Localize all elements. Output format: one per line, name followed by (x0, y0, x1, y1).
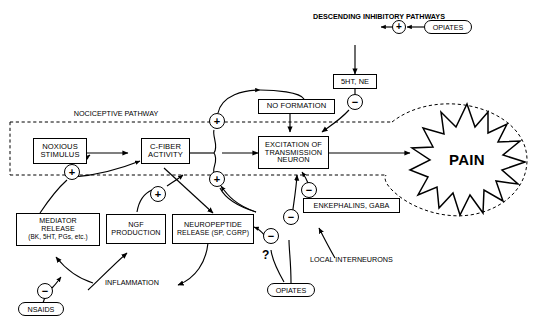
noxious-stimulus-node[interactable]: NOXIOUS STIMULUS (33, 138, 87, 164)
edge-mediator-to-plus (40, 180, 67, 213)
pain-pathway-diagram: NOCICEPTIVE PATHWAY DESCENDING INHIBITOR… (0, 0, 535, 323)
edge-noformation-loop-right (260, 90, 304, 99)
plus-sign-cfiber-down: + (209, 171, 225, 187)
descending-inhibitory-pathways-label: DESCENDING INHIBITORY PATHWAYS (313, 12, 397, 21)
mediator-release-node[interactable]: MEDIATOR RELEASE (BK, 5HT, PGs, etc.) (16, 213, 100, 246)
edge-cfiber-branch-up (214, 130, 216, 153)
edge-cfiber-to-neuropeptide (164, 168, 213, 213)
plus-sign-ngf: + (150, 186, 166, 202)
pain-label: PAIN (408, 100, 526, 218)
edge-interneurons-to-enkephalins (319, 228, 335, 258)
neuropeptide-release-node[interactable]: NEUROPEPTIDE RELEASE (SP, CGRP) (172, 214, 254, 244)
opiates-bottom-node[interactable]: OPIATES (267, 283, 315, 297)
minus-sign-opiates-neuropeptide: − (263, 228, 279, 244)
excitation-transmission-neuron-node[interactable]: EXCITATION OF TRANSMISSION NEURON (258, 136, 329, 169)
enkephalins-gaba-node[interactable]: ENKEPHALINS, GABA (303, 198, 400, 213)
no-formation-node[interactable]: NO FORMATION (258, 99, 335, 114)
plus-sign-mediator-stimulus: + (64, 164, 80, 180)
plus-sign-cfiber-up: + (209, 113, 225, 129)
minus-sign-nsaids: − (37, 283, 53, 299)
opiates-top-node[interactable]: OPIATES (424, 20, 472, 34)
nsaids-node[interactable]: NSAIDS (18, 302, 64, 316)
c-fiber-activity-node[interactable]: C-FIBER ACTIVITY (141, 138, 190, 164)
edge-opiates-bottom-up (289, 240, 291, 283)
minus-sign-enkephalins: − (301, 182, 317, 198)
five-ht-ne-node[interactable]: 5HT, NE (333, 74, 377, 89)
edge-inflammation-to-mediator (56, 257, 93, 283)
edge-opiates-to-np-branch (271, 250, 284, 282)
plus-sign-opiates-descending: + (392, 20, 406, 34)
question-mark-annotation: ? (262, 248, 269, 262)
minus-sign-5htne: − (347, 94, 363, 110)
nociceptive-pathway-label: NOCICEPTIVE PATHWAY (56, 110, 176, 118)
edge-neuropeptide-to-inflammation (178, 243, 208, 285)
edge-plus-ngf-to-cfiber (167, 175, 183, 186)
inflammation-label: INFLAMMATION (93, 279, 171, 287)
edge-minus-to-mediator (52, 277, 61, 288)
edge-neuropeptide-to-plus (221, 186, 256, 212)
ngf-production-node[interactable]: NGF PRODUCTION (106, 214, 166, 244)
edge-cfiber-branch-down (214, 153, 216, 172)
edge-plus-up-to-noformation (218, 90, 260, 113)
local-interneurons-label: LOCAL INTERNEURONS (310, 255, 392, 264)
minus-sign-opiates-excitation: − (283, 209, 299, 225)
